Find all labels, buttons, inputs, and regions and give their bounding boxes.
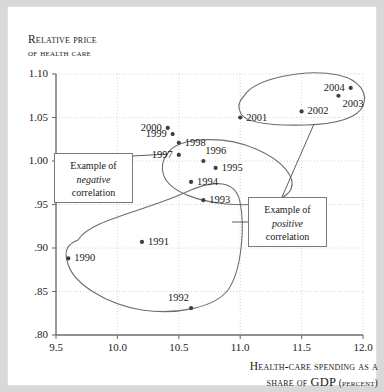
data-point-label: 2004	[317, 83, 345, 94]
y-axis-title-line-1: Relative price	[28, 32, 97, 46]
x-tick-label: 12.0	[347, 341, 379, 353]
data-point	[214, 166, 218, 170]
data-point	[201, 198, 205, 202]
data-point-label: 1990	[74, 253, 95, 264]
data-point	[201, 159, 205, 163]
data-point	[177, 153, 181, 157]
callout-negative-line-3: correlation	[61, 186, 126, 200]
data-point-label: 2001	[246, 113, 267, 124]
data-point	[189, 306, 193, 310]
x-tick-label: 10.5	[163, 341, 195, 353]
x-axis-title-percent: (percent)	[336, 378, 378, 388]
data-point	[66, 256, 70, 260]
figure-frame: Relative price of health care Health-car…	[0, 0, 384, 392]
x-tick-label: 9.5	[40, 341, 72, 353]
data-point-label: 1991	[148, 237, 169, 248]
figure-canvas: Relative price of health care Health-car…	[7, 6, 377, 386]
data-point-label: 2000	[134, 123, 162, 134]
data-point	[140, 240, 144, 244]
y-tick-label: .95	[14, 198, 48, 210]
callout-negative-correlation: Example of negative correlation	[54, 153, 133, 203]
x-axis-title: Health-care spending as a share of GDP (…	[178, 359, 378, 390]
y-tick-label: 1.00	[14, 154, 48, 166]
callout-positive-line-2: positive	[272, 218, 303, 229]
callout-positive-correlation: Example of positive correlation	[248, 197, 327, 247]
data-point-label: 1997	[145, 150, 173, 161]
data-point	[238, 115, 242, 119]
data-point-label: 2002	[308, 106, 329, 117]
y-tick-label: .80	[14, 328, 48, 340]
data-point-label: 1996	[205, 146, 226, 157]
data-point	[189, 180, 193, 184]
data-point-label: 2003	[342, 99, 363, 110]
data-point	[300, 109, 304, 113]
y-axis-title-line-2: of health care	[28, 46, 97, 59]
callout-positive-line-3: correlation	[255, 230, 320, 244]
callout-negative-line-1: Example of	[61, 159, 126, 173]
x-tick-label: 10.0	[101, 341, 133, 353]
positive-leader-line-upper	[282, 124, 314, 197]
x-axis-title-line-1: Health-care spending as a	[178, 359, 378, 374]
x-axis-title-line-2: share of GDP (percent)	[178, 374, 378, 390]
callout-negative-line-2: negative	[77, 174, 111, 185]
data-point	[349, 86, 353, 90]
x-tick-label: 11.0	[224, 341, 256, 353]
data-point-label: 1993	[209, 195, 230, 206]
data-point-label: 1998	[185, 138, 206, 149]
data-point	[336, 94, 340, 98]
y-tick-label: .90	[14, 241, 48, 253]
x-tick-label: 11.5	[286, 341, 318, 353]
data-point	[171, 132, 175, 136]
y-axis-title: Relative price of health care	[28, 32, 97, 60]
y-tick-label: 1.10	[14, 67, 48, 79]
y-tick-label: 1.05	[14, 111, 48, 123]
callout-positive-line-1: Example of	[255, 203, 320, 217]
data-point-label: 1992	[161, 293, 189, 304]
x-axis-title-share-of: share of	[267, 376, 311, 388]
x-axis-title-gdp: GDP	[311, 375, 337, 389]
data-point	[177, 141, 181, 145]
y-tick-label: .85	[14, 285, 48, 297]
data-point-label: 1994	[197, 177, 218, 188]
data-point-label: 1995	[222, 163, 243, 174]
